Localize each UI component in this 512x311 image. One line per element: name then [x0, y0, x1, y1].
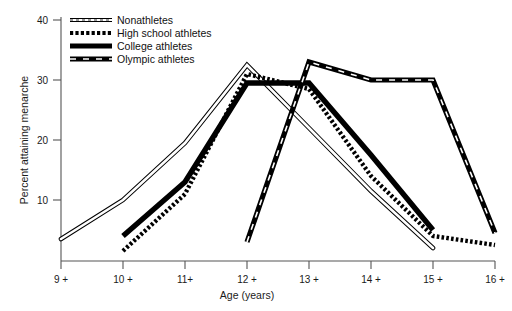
x-tick-label-13: 13 + — [299, 274, 319, 285]
legend-item-college-athletes[interactable]: College athletes — [70, 40, 192, 52]
series-line-nonathletes-core — [61, 65, 433, 248]
x-tick-label-15: 15 + — [423, 274, 443, 285]
x-tick-label-12: 12 + — [237, 274, 257, 285]
y-tick-label-30: 30 — [37, 75, 49, 86]
x-tick-label-14: 14 + — [361, 274, 381, 285]
legend-label-nonathletes: Nonathletes — [117, 14, 173, 26]
x-tick-label-16: 16 + — [485, 274, 505, 285]
line-chart: 40 30 20 10 9 + 10 + 11+ 12 + 13 + 14 + … — [0, 0, 512, 311]
y-axis-title: Percent attaining menarche — [18, 76, 30, 205]
legend-item-nonathletes[interactable]: Nonathletes — [70, 14, 173, 26]
legend: Nonathletes High school athletes College… — [70, 14, 212, 65]
x-tick-label-10: 10 + — [113, 274, 133, 285]
y-tick-label-20: 20 — [37, 135, 49, 146]
x-tick-label-9: 9 + — [54, 274, 68, 285]
y-tick-label-40: 40 — [37, 15, 49, 26]
legend-item-high-school-athletes[interactable]: High school athletes — [70, 27, 212, 39]
legend-label-olympic-athletes: Olympic athletes — [117, 53, 195, 65]
x-axis-title: Age (years) — [220, 289, 274, 301]
data-series-layer — [61, 62, 495, 251]
chart-figure: 40 30 20 10 9 + 10 + 11+ 12 + 13 + 14 + … — [0, 0, 512, 311]
y-tick-label-10: 10 — [37, 195, 49, 206]
x-tick-label-11: 11+ — [177, 274, 193, 285]
legend-label-high-school-athletes: High school athletes — [117, 27, 212, 39]
legend-item-olympic-athletes[interactable]: Olympic athletes — [70, 53, 195, 65]
series-line-nonathletes-outer — [61, 65, 433, 248]
legend-label-college-athletes: College athletes — [117, 40, 192, 52]
